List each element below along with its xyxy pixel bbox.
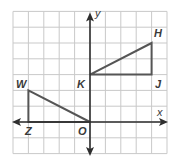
vertex-label-J: J [155,78,162,90]
vertex-label-O: O [78,125,87,137]
x-axis-label: x [156,106,163,118]
vertex-label-Z: Z [24,125,33,137]
vertex-label-W: W [16,78,28,90]
y-axis-label: y [94,7,102,19]
coordinate-plane: x y H J K W Z O [0,0,173,163]
vertex-label-H: H [154,27,163,39]
axes [12,12,168,156]
vertex-label-K: K [77,78,86,90]
